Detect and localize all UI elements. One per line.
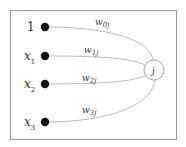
input-dot-2 (41, 80, 49, 88)
input-dot-1 (41, 52, 49, 60)
perceptron-diagram: j 1 x1 x2 x3 w0j w1j w2j w3j (0, 0, 186, 147)
input-dot-0 (41, 23, 49, 31)
input-dot-3 (41, 118, 49, 126)
input-label-bias: 1 (27, 20, 35, 34)
